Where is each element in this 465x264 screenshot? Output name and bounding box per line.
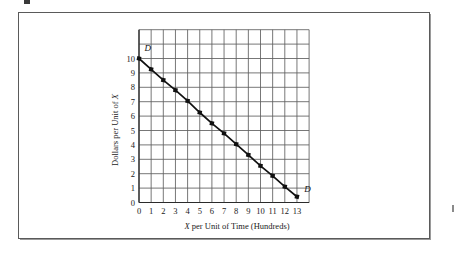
- data-point-marker: [161, 78, 166, 83]
- curve-label-d-top: D: [143, 43, 151, 53]
- x-tick-label-4: 4: [185, 206, 190, 216]
- y-tick-label-4: 4: [131, 140, 136, 150]
- x-axis-tick-labels: 012345678910111213: [137, 206, 301, 216]
- x-tick-label-11: 11: [269, 206, 277, 216]
- x-tick-label-10: 10: [256, 206, 265, 216]
- x-tick-label-9: 9: [246, 206, 250, 216]
- x-tick-label-13: 13: [293, 206, 302, 216]
- data-point-marker: [185, 98, 190, 103]
- data-point-marker: [197, 110, 202, 115]
- y-tick-label-6: 6: [131, 111, 135, 121]
- x-tick-label-1: 1: [149, 206, 153, 216]
- y-tick-label-10: 10: [127, 54, 136, 64]
- curve-label-d-bottom: D: [303, 184, 311, 194]
- data-point-marker: [149, 67, 154, 72]
- demand-curve-chart: 012345678910111213 012345678910 DD X per…: [0, 0, 465, 264]
- y-tick-label-3: 3: [131, 154, 135, 164]
- y-axis-tick-labels: 012345678910: [127, 54, 136, 208]
- x-tick-label-7: 7: [222, 206, 226, 216]
- data-point-marker: [173, 88, 178, 93]
- y-tick-label-2: 2: [131, 169, 135, 179]
- data-point-marker: [222, 131, 227, 136]
- y-axis-title-variable: X: [110, 93, 120, 100]
- x-tick-label-0: 0: [137, 206, 141, 216]
- x-axis-title-text: per Unit of Time (Hundreds): [190, 221, 290, 231]
- y-tick-label-7: 7: [131, 97, 135, 107]
- data-point-marker: [258, 163, 263, 168]
- y-tick-label-9: 9: [131, 68, 135, 78]
- x-axis-title: X per Unit of Time (Hundreds): [183, 221, 289, 231]
- data-point-marker: [209, 121, 214, 126]
- x-tick-label-6: 6: [210, 206, 214, 216]
- x-tick-label-3: 3: [173, 206, 177, 216]
- y-tick-label-5: 5: [131, 126, 135, 136]
- y-tick-label-8: 8: [131, 82, 135, 92]
- data-point-marker: [246, 152, 251, 157]
- x-tick-label-8: 8: [234, 206, 238, 216]
- data-point-marker: [234, 142, 239, 147]
- y-tick-label-0: 0: [131, 198, 135, 208]
- y-tick-label-1: 1: [131, 183, 135, 193]
- data-point-marker: [294, 194, 299, 199]
- y-axis-title-text: Dollars per Unit of: [110, 99, 120, 166]
- data-point-marker: [137, 56, 142, 61]
- y-axis-title: Dollars per Unit of X: [110, 93, 120, 166]
- x-tick-label-5: 5: [198, 206, 202, 216]
- data-point-marker: [270, 173, 275, 178]
- figure-root: 012345678910111213 012345678910 DD X per…: [0, 0, 465, 264]
- x-tick-label-12: 12: [281, 206, 290, 216]
- data-point-marker: [282, 184, 287, 189]
- demand-curve-annotations: DD: [143, 43, 311, 194]
- x-tick-label-2: 2: [161, 206, 165, 216]
